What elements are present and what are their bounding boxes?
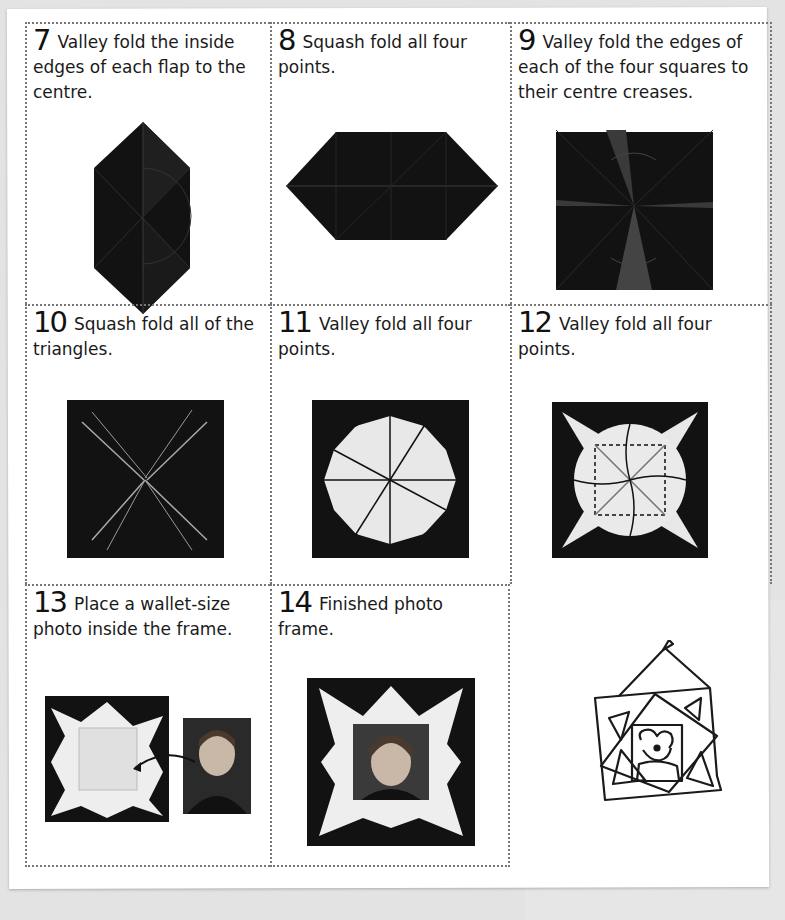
square-with-x-creases-icon: [67, 400, 227, 562]
square-with-light-circular-center-icon: [312, 400, 472, 562]
step-number: 8: [278, 23, 294, 57]
horizontal-hexagon-folded-paper-icon: [286, 132, 500, 244]
step-number: 10: [33, 305, 66, 339]
step-instruction: Valley fold the edges of each of the fou…: [518, 32, 748, 102]
step-14-panel: 14Finished photo frame.: [270, 584, 510, 867]
step-8-panel: 8Squash fold all four points.: [270, 22, 510, 304]
elongated-hexagon-folded-paper-icon: [92, 122, 202, 316]
step-7-panel: 7Valley fold the inside edges of each fl…: [25, 22, 270, 304]
step-11-panel: 11Valley fold all four points.: [270, 304, 510, 584]
hanging-frame-sketch-icon: [565, 640, 755, 860]
square-with-radiating-creases-icon: [556, 130, 716, 294]
step-13-panel: 13Place a wallet-size photo inside the f…: [25, 584, 270, 867]
step-instruction: Valley fold the inside edges of each fla…: [33, 32, 246, 102]
step-number: 11: [278, 305, 311, 339]
step-9-panel: 9Valley fold the edges of each of the fo…: [510, 22, 772, 304]
step-instruction: Squash fold all of the triangles.: [33, 314, 254, 359]
finished-frame-with-portrait-icon: [307, 678, 479, 850]
frame-and-portrait-photo-icon: [45, 696, 265, 826]
step-instruction: Squash fold all four points.: [278, 32, 467, 77]
step-12-panel: 12Valley fold all four points.: [510, 304, 772, 584]
star-with-dashed-square-and-arrows-icon: [552, 402, 712, 562]
step-10-panel: 10Squash fold all of the triangles.: [25, 304, 270, 584]
step-number: 12: [518, 305, 551, 339]
step-number: 7: [33, 23, 49, 57]
step-number: 14: [278, 585, 311, 619]
step-number: 13: [33, 585, 66, 619]
step-number: 9: [518, 23, 534, 57]
